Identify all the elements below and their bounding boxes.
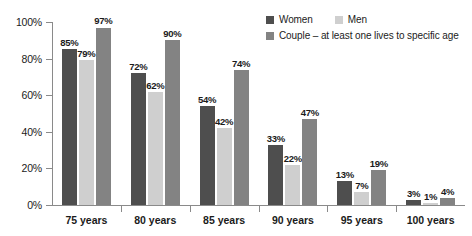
legend-item-label: Men	[348, 14, 367, 25]
bar-value-label: 1%	[424, 191, 437, 202]
bar-value-label: 3%	[407, 188, 420, 199]
y-axis-label-slot: 20%	[0, 168, 44, 180]
y-axis-tick	[46, 22, 52, 23]
bar	[62, 49, 77, 205]
bar-value-label: 72%	[129, 61, 147, 72]
x-axis-group-separator	[121, 206, 122, 212]
legend-item[interactable]: Women	[266, 14, 313, 25]
y-axis-label-slot: 60%	[0, 95, 44, 107]
bar	[217, 128, 232, 205]
legend-swatch-icon	[335, 16, 343, 24]
bar	[148, 92, 163, 205]
bar-value-label: 97%	[94, 15, 112, 26]
bar	[406, 200, 421, 205]
y-axis-tick	[46, 132, 52, 133]
bar-value-label: 54%	[198, 94, 216, 105]
bar	[268, 145, 283, 205]
y-axis-label-slot: 0%	[0, 205, 44, 217]
x-axis-group-separator	[327, 206, 328, 212]
bar	[165, 40, 180, 205]
legend-item[interactable]: Men	[335, 14, 367, 25]
bar-value-label: 7%	[355, 180, 368, 191]
x-axis-group-separator	[190, 206, 191, 212]
bar-value-label: 74%	[232, 58, 250, 69]
x-axis-group-separator	[259, 206, 260, 212]
y-axis-label-slot: 80%	[0, 59, 44, 71]
bar-value-label: 13%	[336, 169, 354, 180]
bar-value-label: 79%	[77, 48, 95, 59]
y-axis-line	[52, 22, 53, 206]
y-axis-tick-label: 60%	[0, 89, 42, 101]
bar-value-label: 19%	[370, 158, 388, 169]
bar	[302, 119, 317, 205]
bar	[354, 192, 369, 205]
legend-row-secondary: Couple – at least one lives to specific …	[266, 30, 459, 43]
y-axis-tick-label: 80%	[0, 53, 42, 65]
y-axis-tick-label: 0%	[0, 199, 42, 211]
bar	[285, 165, 300, 205]
y-axis-tick	[46, 95, 52, 96]
chart-legend: WomenMen Couple – at least one lives to …	[266, 14, 459, 46]
y-axis-tick	[46, 168, 52, 169]
legend-swatch-icon	[266, 32, 274, 40]
legend-swatch-icon	[266, 16, 274, 24]
bar-value-label: 33%	[267, 133, 285, 144]
x-axis-category-label: 85 years	[203, 214, 245, 226]
x-axis-category-label: 90 years	[272, 214, 314, 226]
bar-value-label: 42%	[215, 116, 233, 127]
y-axis-tick	[46, 59, 52, 60]
legend-item-label: Women	[279, 14, 313, 25]
x-axis-group-separator	[396, 206, 397, 212]
bar	[234, 70, 249, 205]
x-axis-category-label: 95 years	[341, 214, 383, 226]
y-axis-label-slot: 40%	[0, 132, 44, 144]
legend-row-primary: WomenMen	[266, 14, 459, 27]
legend-item[interactable]: Couple – at least one lives to specific …	[266, 30, 459, 41]
bar	[423, 203, 438, 205]
bar-value-label: 85%	[60, 37, 78, 48]
bar-value-label: 47%	[301, 107, 319, 118]
y-axis-tick-label: 40%	[0, 126, 42, 138]
bar	[371, 170, 386, 205]
bar-chart: 0%20%40%60%80%100% 85%79%97%72%62%90%54%…	[0, 0, 472, 236]
bar-value-label: 90%	[163, 28, 181, 39]
bar-value-label: 22%	[284, 153, 302, 164]
y-axis-label-slot: 100%	[0, 22, 44, 34]
bar-value-label: 4%	[441, 186, 454, 197]
bar	[131, 73, 146, 205]
bar	[440, 198, 455, 205]
bar	[79, 60, 94, 205]
x-axis-category-label: 75 years	[65, 214, 107, 226]
bar-value-label: 62%	[146, 80, 164, 91]
y-axis-tick-label: 20%	[0, 162, 42, 174]
y-axis-tick-label: 100%	[0, 16, 42, 28]
x-axis-category-label: 100 years	[407, 214, 455, 226]
x-axis-category-label: 80 years	[134, 214, 176, 226]
bar	[96, 28, 111, 206]
legend-item-label: Couple – at least one lives to specific …	[279, 30, 459, 41]
y-axis-tick	[46, 205, 52, 206]
bar	[337, 181, 352, 205]
bar	[200, 106, 215, 205]
